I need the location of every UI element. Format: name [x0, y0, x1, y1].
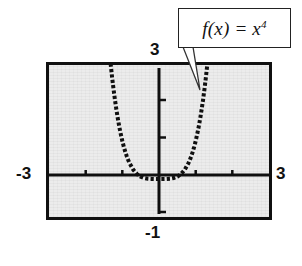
- y-min-label: -1: [145, 224, 160, 241]
- callout-pointer-wedge: [183, 47, 200, 90]
- figure-container: 3 -3 3 -1 f(x) = x4: [0, 0, 302, 266]
- x-min-label: -3: [16, 165, 31, 182]
- function-expression-base: f(x) = x: [202, 18, 261, 39]
- callout-leader-line: [150, 40, 300, 102]
- function-label-callout: f(x) = x4: [178, 8, 291, 48]
- function-label-text: f(x) = x4: [202, 19, 266, 38]
- x-max-label: 3: [276, 165, 285, 182]
- function-exponent: 4: [261, 17, 267, 29]
